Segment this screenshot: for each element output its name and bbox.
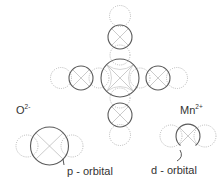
- o-right-p-lobe: [61, 135, 83, 157]
- oxygen-ion-legend: [16, 127, 83, 165]
- d-orbital-label: d - orbital: [151, 164, 197, 176]
- left-outer-p-lobe: [51, 68, 72, 89]
- ligand-bottom: [108, 103, 132, 127]
- d-orbital-pointer: [177, 150, 181, 161]
- p-orbital-pointer: [63, 159, 64, 165]
- bottom-outer-p-lobe: [110, 125, 131, 146]
- oxygen-ion-label: O2-: [16, 101, 30, 116]
- central-cluster: [51, 6, 188, 146]
- orbital-diagram: [0, 0, 224, 184]
- o-left-p-lobe: [16, 135, 38, 157]
- top-outer-p-lobe: [110, 6, 131, 27]
- p-orbital-label: p - orbital: [67, 165, 113, 177]
- manganese-ion-legend: [160, 124, 216, 161]
- manganese-ion-symbol: Mn: [180, 104, 195, 116]
- top-inner-lobe: [110, 45, 130, 65]
- manganese-ion-charge: 2+: [195, 103, 202, 110]
- oxygen-ion-symbol: O: [16, 104, 25, 116]
- right-inner-lobe: [130, 68, 150, 88]
- oxygen-ion-charge: 2-: [25, 103, 31, 110]
- left-inner-lobe: [89, 68, 109, 88]
- manganese-ion-label: Mn2+: [180, 101, 203, 116]
